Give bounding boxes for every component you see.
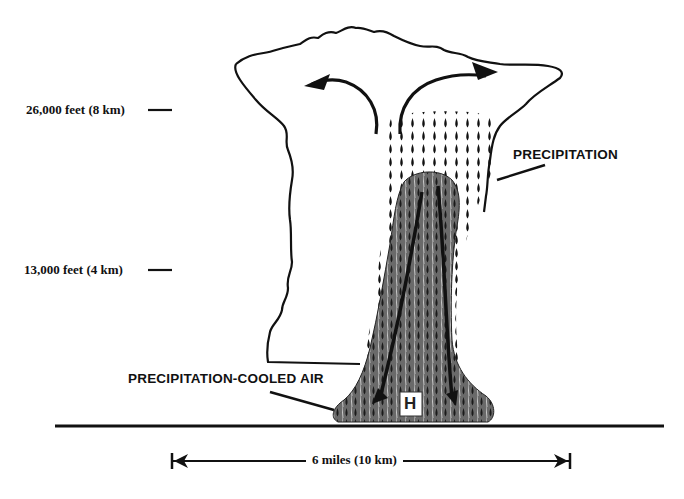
diagram-canvas: [0, 0, 684, 499]
altitude-label-4km: 13,000 feet (4 km): [24, 262, 123, 278]
precipitation-label: PRECIPITATION: [513, 147, 618, 162]
altitude-label-8km: 26,000 feet (8 km): [26, 102, 125, 118]
arrowhead-icon: [304, 74, 330, 90]
cooled-air-leader: [270, 392, 334, 410]
high-pressure-letter: H: [404, 394, 416, 414]
precipitation-leader: [497, 165, 545, 180]
cooled-air-label: PRECIPITATION-COOLED AIR: [128, 371, 324, 386]
microburst-diagram: 26,000 feet (8 km) 13,000 feet (4 km) PR…: [0, 0, 684, 499]
scale-label: 6 miles (10 km): [306, 452, 403, 468]
